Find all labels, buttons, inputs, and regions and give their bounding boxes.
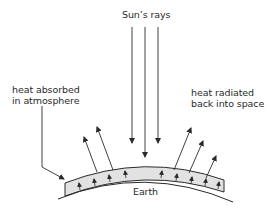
radiated-arrow [97, 127, 113, 170]
radiated-arrow [84, 137, 97, 172]
radiated-arrow [189, 141, 203, 173]
greenhouse-effect-diagram: Sun’s rays heat absorbed in atmosphere h… [0, 0, 270, 215]
heat-radiated-label: heat radiated back into space [191, 87, 264, 109]
heat-absorbed-line2: in atmosphere [12, 95, 80, 106]
radiated-arrow [206, 156, 216, 178]
heat-radiated-line1: heat radiated [191, 87, 264, 98]
heat-absorbed-line1: heat absorbed [12, 84, 80, 95]
heat-radiated-line2: back into space [191, 98, 264, 109]
sun-rays-label: Sun’s rays [122, 9, 170, 20]
radiated-arrow [174, 128, 191, 170]
earth-label: Earth [133, 186, 158, 197]
absorbed-pointer-arrow [42, 106, 64, 179]
heat-absorbed-label: heat absorbed in atmosphere [12, 84, 80, 106]
sun-rays [132, 27, 158, 157]
